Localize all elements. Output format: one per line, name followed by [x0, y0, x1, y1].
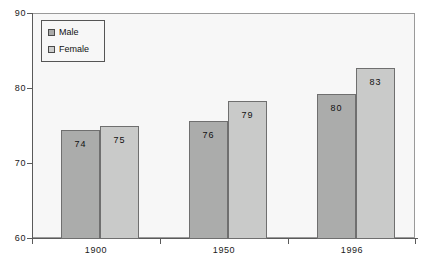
bar-label-female-1996: 83 [356, 77, 395, 87]
x-axis-label-1900: 1900 [66, 245, 126, 255]
y-axis-label-80: 80 [2, 84, 26, 93]
bar-label-male-1996: 80 [317, 103, 356, 113]
y-axis-label-90: 90 [2, 9, 26, 18]
y-axis-label-70: 70 [2, 159, 26, 168]
bar-label-female-1950: 79 [228, 110, 267, 120]
y-axis-label-60: 60 [2, 234, 26, 243]
bar-label-male-1950: 76 [189, 130, 228, 140]
legend-item-female: Female [48, 44, 89, 54]
y-axis-line [32, 13, 33, 239]
bar-label-female-1900: 75 [100, 135, 139, 145]
legend-label-male: Male [59, 27, 79, 37]
x-axis-label-1996: 1996 [322, 245, 382, 255]
y-tick-80 [27, 88, 33, 89]
x-tick-1 [160, 239, 161, 244]
bar-female-1996 [356, 68, 395, 239]
chart-title-sliver [0, 0, 428, 3]
legend-swatch-male-icon [48, 29, 55, 36]
legend-label-female: Female [59, 44, 89, 54]
legend-swatch-female-icon [48, 46, 55, 53]
x-tick-right [415, 239, 416, 244]
chart-legend: Male Female [41, 20, 105, 62]
bar-male-1996 [317, 94, 356, 239]
x-axis-label-1950: 1950 [194, 245, 254, 255]
y-tick-90 [27, 13, 33, 14]
bar-chart: 90 80 70 60 1900 1950 1996 74 75 76 79 8… [0, 0, 428, 263]
x-tick-left [32, 239, 33, 244]
x-tick-2 [288, 239, 289, 244]
bar-female-1950 [228, 101, 267, 239]
legend-item-male: Male [48, 27, 79, 37]
y-tick-70 [27, 163, 33, 164]
bar-label-male-1900: 74 [61, 139, 100, 149]
